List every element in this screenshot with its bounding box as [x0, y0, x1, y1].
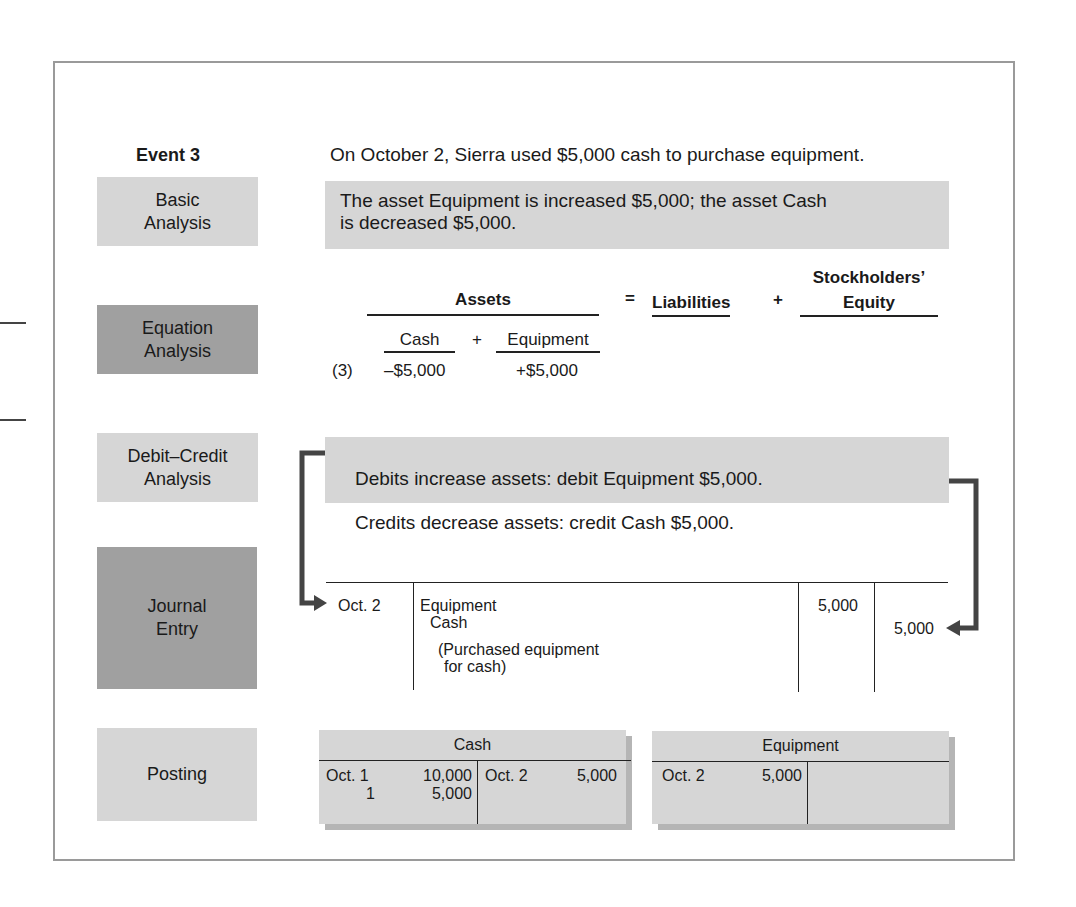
left-arrowhead-icon: [314, 595, 327, 611]
right-arrow-icon: [949, 481, 976, 628]
cash-credit-date: Oct. 2: [485, 767, 528, 784]
journal-col-divider: [798, 582, 799, 692]
journal-date: Oct. 2: [338, 597, 381, 615]
journal-col-divider: [413, 582, 414, 690]
t-account-equipment: Equipment Oct. 2 5,000: [652, 731, 949, 824]
cash-credit-amount: 5,000: [549, 767, 617, 784]
left-arrow-icon: [302, 453, 325, 603]
journal-debit-account: Equipment: [420, 597, 497, 615]
t-account-bar: [652, 761, 949, 762]
t-account-title: Equipment: [652, 737, 949, 755]
t-account-divider: [477, 760, 478, 824]
journal-debit-amount: 5,000: [802, 597, 858, 615]
t-account-bar: [319, 760, 631, 761]
journal-explanation-line1: (Purchased equipment: [438, 641, 599, 659]
journal-col-divider: [874, 582, 875, 692]
t-account-title: Cash: [319, 736, 626, 754]
cash-debit-date: Oct. 1: [326, 767, 369, 784]
cash-debit-amount: 5,000: [409, 785, 472, 802]
equipment-debit-amount: 5,000: [742, 767, 802, 784]
journal-credit-amount: 5,000: [878, 620, 934, 638]
journal-explanation-line2: for cash): [444, 658, 506, 676]
journal-top-rule: [326, 582, 948, 583]
right-arrowhead-icon: [946, 620, 960, 636]
journal-credit-account: Cash: [430, 614, 467, 632]
cash-debit-amount: 10,000: [409, 767, 472, 784]
cash-debit-date: 1: [349, 785, 375, 802]
t-account-cash: Cash Oct. 1 10,000 1 5,000 Oct. 2 5,000: [319, 730, 626, 824]
equipment-debit-date: Oct. 2: [662, 767, 705, 784]
t-account-divider: [807, 761, 808, 824]
